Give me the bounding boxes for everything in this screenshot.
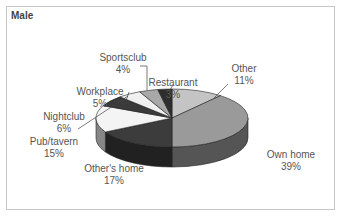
slice-label-value: 6% — [57, 123, 72, 134]
slice-label-name: Restaurant — [149, 77, 198, 88]
slice-label-name: Nightclub — [43, 111, 85, 122]
slice-label-value: 11% — [234, 75, 253, 86]
slice-label-name: Workplace — [76, 86, 123, 97]
leader-line — [140, 66, 147, 90]
slice-label-value: 39% — [281, 161, 301, 172]
slice-label-value: 15% — [44, 148, 64, 159]
pie-chart: Other11%Own home39%Other's home17%Pub/ta… — [0, 0, 340, 218]
slice-label-value: 3% — [166, 89, 181, 100]
slice-label-name: Sportsclub — [99, 52, 147, 63]
slice-label-value: 4% — [116, 64, 131, 75]
slice-label-value: 17% — [104, 175, 124, 186]
slice-label-name: Own home — [267, 149, 316, 160]
slice-label-name: Other's home — [84, 163, 144, 174]
slice-label-value: 5% — [93, 98, 108, 109]
slice-label-name: Pub/tavern — [30, 136, 78, 147]
slice-label-name: Other — [231, 63, 257, 74]
